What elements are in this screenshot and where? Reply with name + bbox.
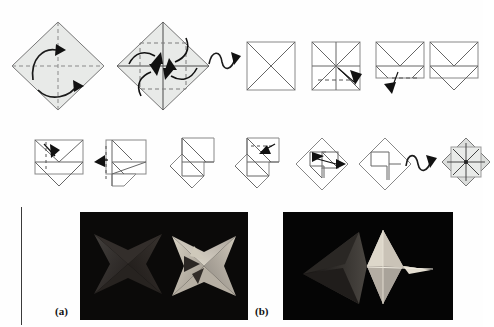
step-10-pinwheel-with-fold-arrow: [225, 136, 289, 192]
loop-arrow-path: [209, 53, 235, 68]
loop-arrowhead: [426, 155, 437, 168]
step-3-square-with-diagonals: [245, 40, 297, 92]
step-1-square-diamond-creased: [8, 18, 108, 114]
photo-b-label: (b): [255, 305, 268, 317]
photo-b-content: [283, 212, 453, 320]
crease-solid: [117, 22, 209, 110]
photo-a: [80, 212, 248, 320]
step-13-finished-star-diamond: [438, 134, 494, 192]
photo-b: [283, 212, 453, 320]
step-4-square-with-diagonals-and-midlines: [310, 40, 370, 94]
arrowhead-down: [384, 82, 396, 94]
step-9-pinwheel-forming: [160, 136, 224, 192]
step-8-partial-fold-left: [92, 138, 154, 190]
center-dot: [464, 160, 468, 164]
photo-a-label: (a): [55, 305, 68, 317]
flip-symbol-2-turn-over-symbol: [404, 148, 440, 176]
step-5-folded-rectangle-with-v: [374, 40, 434, 96]
step-6-rectangle-with-double-v: [428, 40, 484, 96]
arrowhead-left: [94, 155, 105, 167]
step-2-diamond-corners-to-center: [113, 18, 213, 114]
left-vertical-rule: [21, 207, 22, 325]
step-11-diamond-pinwheel-fold: [292, 134, 356, 194]
flip-symbol-1-turn-over-symbol: [207, 44, 247, 72]
body-outline: [170, 138, 214, 188]
crease-lines: [312, 42, 360, 90]
photo-a-content: [80, 212, 248, 320]
step-7-rectangle-fold-left-flap: [33, 138, 89, 190]
